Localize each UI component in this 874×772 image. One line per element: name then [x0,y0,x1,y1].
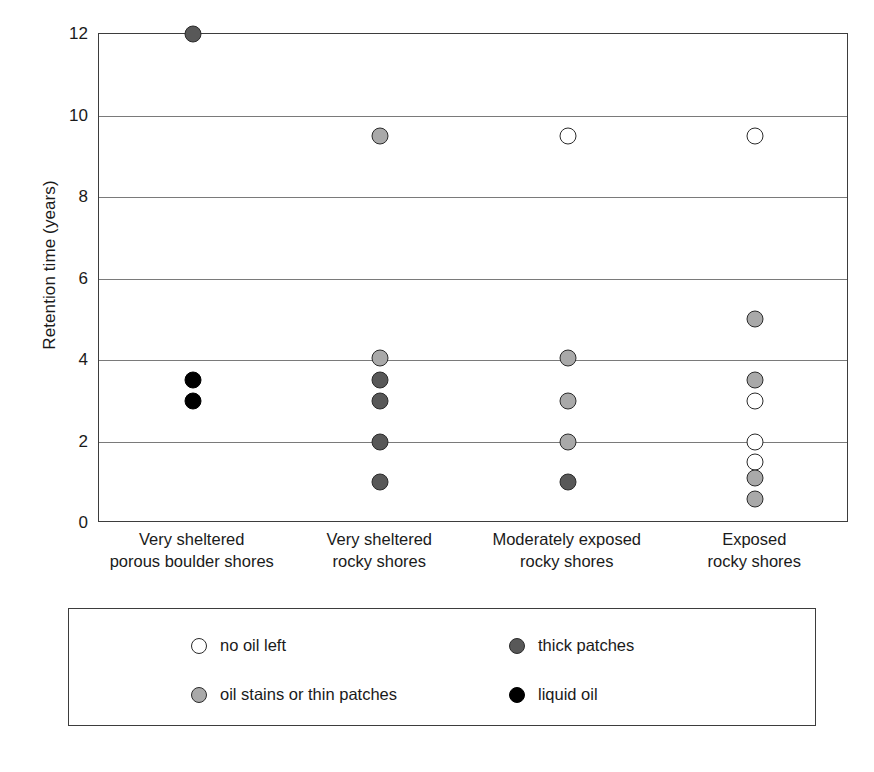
data-point [372,349,389,366]
x-category-label-line1: Exposed [707,528,801,550]
data-point [747,470,764,487]
data-point [372,392,389,409]
gridline-8 [99,197,847,198]
legend-label: no oil left [220,636,286,655]
legend-swatch-lightgray [191,687,207,703]
y-tick-label-8: 8 [48,188,88,205]
data-point [372,127,389,144]
scatter-chart-figure: Retention time (years) 024681012 Very sh… [0,0,874,772]
data-point [184,26,201,43]
x-category-label-line2: rocky shores [492,550,641,572]
y-tick-label-12: 12 [48,25,88,42]
gridline-4 [99,360,847,361]
y-tick-label-6: 6 [48,269,88,286]
data-point [747,372,764,389]
gridline-2 [99,442,847,443]
y-tick-label-10: 10 [48,106,88,123]
data-point [559,392,576,409]
legend-label: liquid oil [538,685,598,704]
gridline-10 [99,116,847,117]
y-tick-label-2: 2 [48,432,88,449]
legend-swatch-black [509,687,525,703]
data-point [372,474,389,491]
legend-entry: oil stains or thin patches [191,685,397,704]
data-point [559,349,576,366]
y-axis-tick-labels: 024681012 [40,33,88,522]
data-point [559,127,576,144]
x-category-label-3: Exposedrocky shores [707,528,801,573]
data-point [747,453,764,470]
x-axis-category-labels: Very shelteredporous boulder shoresVery … [98,528,848,586]
data-point [559,433,576,450]
legend-swatch-white [191,638,207,654]
x-category-label-1: Very shelteredrocky shores [327,528,432,573]
legend-label: thick patches [538,636,634,655]
data-point [184,372,201,389]
x-category-label-line2: porous boulder shores [110,550,274,572]
x-category-label-0: Very shelteredporous boulder shores [110,528,274,573]
legend-label: oil stains or thin patches [220,685,397,704]
data-point [747,433,764,450]
y-tick-label-4: 4 [48,351,88,368]
y-tick-label-0: 0 [48,514,88,531]
data-point [372,372,389,389]
chart-legend: no oil leftthick patchesoil stains or th… [68,608,816,726]
legend-entry: no oil left [191,636,286,655]
legend-swatch-darkgray [509,638,525,654]
legend-entry: thick patches [509,636,634,655]
x-category-label-line1: Moderately exposed [492,528,641,550]
gridline-6 [99,279,847,280]
x-category-label-line2: rocky shores [327,550,432,572]
data-point [747,392,764,409]
plot-area [98,33,848,522]
data-point [184,392,201,409]
data-point [747,127,764,144]
data-point [559,474,576,491]
x-category-label-line1: Very sheltered [327,528,432,550]
data-point [372,433,389,450]
legend-entry: liquid oil [509,685,598,704]
x-category-label-line2: rocky shores [707,550,801,572]
data-point [747,311,764,328]
x-category-label-line1: Very sheltered [110,528,274,550]
x-category-label-2: Moderately exposedrocky shores [492,528,641,573]
data-point [747,490,764,507]
